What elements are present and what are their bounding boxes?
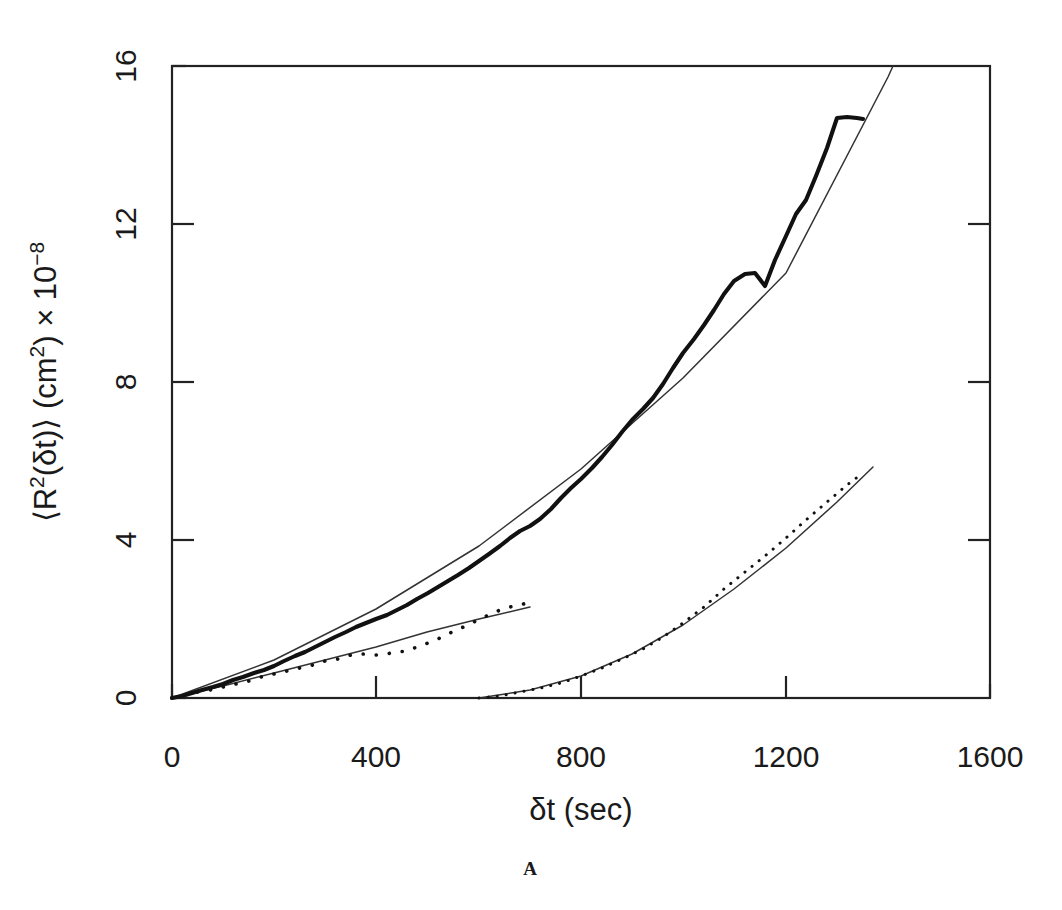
x-axis-title: δt (sec) bbox=[529, 792, 632, 827]
y-axis-ticks-right bbox=[968, 224, 990, 540]
figure-container: 0 400 800 1200 1600 0 4 8 12 16 ⟨R2(δt)⟩… bbox=[0, 0, 1062, 910]
series-msd-fast-linear-fit bbox=[172, 66, 893, 698]
panel-caption: A bbox=[523, 858, 537, 879]
x-axis-ticks bbox=[172, 676, 990, 698]
x-tick-label-0: 0 bbox=[164, 740, 181, 773]
y-axis-title-suffix: ) × 10 bbox=[28, 266, 63, 346]
x-tick-label-1600: 1600 bbox=[957, 740, 1024, 773]
y-axis-title-prefix: ⟨R bbox=[28, 488, 63, 522]
y-axis-title-exp3: −8 bbox=[25, 242, 48, 266]
y-axis-title-exp1: 2 bbox=[25, 476, 48, 488]
y-axis-title-group: ⟨R2(δt)⟩ (cm2) × 10−8 bbox=[25, 242, 63, 523]
series-msd-fast-experimental bbox=[172, 117, 863, 698]
y-axis-ticks bbox=[172, 66, 194, 698]
y-axis-title-mid: (δt)⟩ (cm bbox=[28, 357, 63, 476]
data-series-group bbox=[172, 66, 893, 698]
x-tick-label-400: 400 bbox=[351, 740, 401, 773]
y-tick-label-16: 16 bbox=[109, 49, 142, 82]
y-axis-title-exp2: 2 bbox=[25, 346, 48, 358]
x-tick-label-1200: 1200 bbox=[753, 740, 820, 773]
y-tick-label-12: 12 bbox=[109, 207, 142, 240]
plot-frame bbox=[172, 66, 990, 698]
y-axis-title: ⟨R2(δt)⟩ (cm2) × 10−8 bbox=[25, 242, 63, 523]
y-tick-label-0: 0 bbox=[109, 690, 142, 707]
y-tick-label-4: 4 bbox=[109, 532, 142, 549]
x-tick-labels: 0 400 800 1200 1600 bbox=[164, 740, 1024, 773]
chart-canvas: 0 400 800 1200 1600 0 4 8 12 16 ⟨R2(δt)⟩… bbox=[0, 0, 1062, 910]
y-tick-labels: 0 4 8 12 16 bbox=[109, 49, 142, 706]
series-msd-slow-dotted-data bbox=[479, 473, 863, 698]
axis-frame-box bbox=[172, 66, 990, 698]
y-tick-label-8: 8 bbox=[109, 374, 142, 391]
x-tick-label-800: 800 bbox=[556, 740, 606, 773]
x-axis-title-group: δt (sec) bbox=[529, 792, 632, 827]
